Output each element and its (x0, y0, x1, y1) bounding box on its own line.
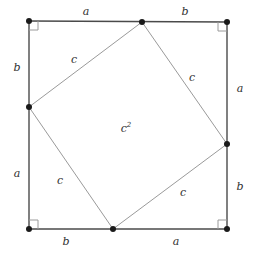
label-right-b: b (236, 181, 243, 192)
dot-outer-top-left (26, 18, 32, 24)
label-inner-area-exponent: 2 (127, 121, 131, 129)
label-hyp-bottom-left-text: c (57, 174, 63, 187)
hypotenuse-left-to-top (29, 22, 142, 107)
hypotenuse-bottom-to-left (29, 107, 113, 229)
label-bottom-a: a (173, 236, 180, 247)
label-top-a: a (83, 6, 90, 17)
dot-inner-right (224, 141, 230, 147)
label-hyp-top-left: c (71, 54, 77, 65)
label-right-b-text: b (236, 180, 243, 193)
label-bottom-b-text: b (62, 235, 69, 248)
label-left-a: a (14, 168, 21, 179)
label-left-b: b (13, 62, 20, 73)
label-left-b-text: b (13, 61, 20, 74)
dot-inner-top (139, 19, 145, 25)
label-hyp-bottom-right: c (180, 187, 186, 198)
label-hyp-top-right: c (189, 72, 195, 83)
pythagorean-diagram: ababbabaccccc2 (0, 0, 253, 257)
outer-edge-top-left-to-top-right (29, 21, 227, 22)
dot-inner-bottom (110, 226, 116, 232)
label-hyp-bottom-right-text: c (180, 186, 186, 199)
hypotenuse-top-to-right (142, 22, 227, 144)
dot-outer-bottom-right (224, 226, 230, 232)
hypotenuse-right-to-bottom (113, 144, 227, 229)
label-bottom-a-text: a (173, 235, 180, 248)
label-hyp-top-right-text: c (189, 71, 195, 84)
dot-inner-left (26, 104, 32, 110)
label-left-a-text: a (14, 167, 21, 180)
label-right-a-text: a (237, 82, 244, 95)
label-hyp-top-left-text: c (71, 53, 77, 66)
dot-outer-bottom-left (26, 226, 32, 232)
dot-outer-top-right (224, 19, 230, 25)
label-top-b-text: b (181, 5, 188, 18)
label-top-b: b (181, 6, 188, 17)
label-bottom-b: b (62, 236, 69, 247)
label-inner-area: c2 (121, 122, 132, 134)
label-hyp-bottom-left: c (57, 175, 63, 186)
label-top-a-text: a (83, 5, 90, 18)
label-right-a: a (237, 83, 244, 94)
